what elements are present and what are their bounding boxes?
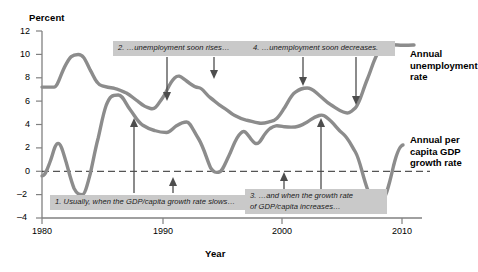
annotation-3-arrows <box>280 118 325 190</box>
annotation-4-arrows <box>299 57 360 105</box>
x-tick-marks <box>42 218 402 224</box>
legend-label-unemployment: Annual unemployment rate <box>410 48 478 83</box>
annotation-box-1: 1. Usually, when the GDP/capita growth r… <box>50 195 249 210</box>
annotation-box-4: 4. …unemployment soon decreases. <box>248 41 395 56</box>
series-line-unemployment <box>42 45 414 124</box>
legend-label-gdp: Annual per capita GDP growth rate <box>410 134 462 169</box>
annotation-box-3: 3. …and when the growth rate of GDP/capi… <box>245 189 387 214</box>
annotation-2-arrows <box>163 57 218 101</box>
y-tick-marks <box>36 31 42 218</box>
annotation-box-2: 2. …unemployment soon rises… <box>113 41 251 56</box>
